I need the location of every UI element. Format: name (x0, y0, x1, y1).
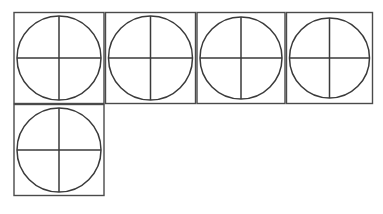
quartered-circle-cell (14, 13, 104, 104)
figure-canvas (0, 0, 383, 214)
quartered-circles-figure: Quartered circles in squares Five square… (0, 0, 383, 214)
quartered-circle-cell (106, 13, 196, 104)
quartered-circle-cell (197, 13, 285, 104)
quartered-circle-cell (14, 105, 104, 196)
quartered-circle-cell (287, 13, 373, 104)
